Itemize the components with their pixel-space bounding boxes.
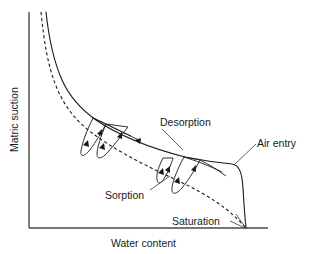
x-axis-label: Water content [111,237,176,249]
axes-group [29,12,268,228]
scanning-loop-2-path [97,124,128,158]
swcc-figure: Desorption Sorption Air entry Saturation… [0,0,315,254]
desorption-label: Desorption [160,116,211,128]
scanning-loop-4-arrow-up [191,165,196,172]
desorption-leader-line [162,129,183,150]
scanning-loop-3-arrow-down [158,168,164,175]
air-entry-leader-line [235,144,256,164]
desorption-curve-group [46,12,246,228]
scanning-loop-4-arrow-down [174,177,180,184]
lower-loop-connectors [184,157,226,176]
swcc-diagram: Desorption Sorption Air entry Saturation… [0,0,315,254]
leader-lines [150,129,256,228]
saturation-label: Saturation [172,215,220,227]
scanning-loop-2 [97,124,128,158]
scanning-loop-2-arrow-down [99,143,105,150]
sorption-label: Sorption [105,189,144,201]
scanning-loop-4 [172,157,200,193]
sorption-leader-line [150,176,170,190]
air-entry-label: Air entry [257,137,297,149]
scanning-loop-4-path [172,157,200,193]
desorption-curve [46,12,246,228]
saturation-leader-line-2 [236,214,245,227]
y-axis-label: Matric suction [8,87,20,152]
saturation-leader-line [230,221,245,228]
scanning-loop-1-arrow-down [83,140,89,147]
